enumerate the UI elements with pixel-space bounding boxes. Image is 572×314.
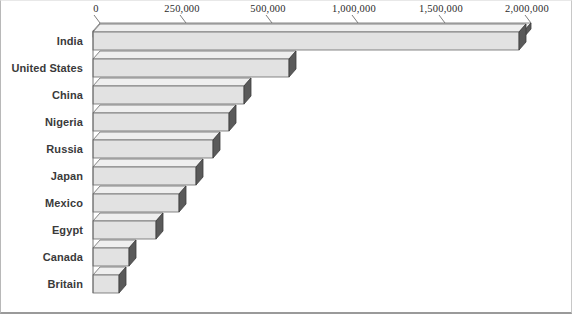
bar-britain	[93, 267, 126, 293]
x-axis-tickmark	[266, 15, 272, 23]
bar-canada	[93, 240, 136, 266]
x-axis-tickmark	[94, 15, 100, 23]
bar-top-face	[93, 24, 526, 32]
x-axis-tickmark	[180, 15, 186, 23]
bar-top-face	[93, 159, 203, 167]
bar-united-states	[93, 51, 296, 77]
category-label-mexico: Mexico	[45, 197, 83, 209]
bar-egypt	[93, 213, 163, 239]
category-labels: IndiaUnited StatesChinaNigeriaRussiaJapa…	[11, 35, 83, 290]
category-label-russia: Russia	[46, 143, 83, 155]
bar-chart-figure: 0250,000500,0001,000,0001,500,0002,000,0…	[0, 0, 572, 314]
bar-front-face	[93, 275, 119, 293]
x-axis-tick-label: 0	[93, 3, 98, 14]
bar-top-face	[93, 213, 163, 221]
category-label-nigeria: Nigeria	[45, 116, 84, 128]
category-label-india: India	[57, 35, 84, 47]
bar-nigeria	[93, 105, 236, 131]
category-label-britain: Britain	[47, 278, 83, 290]
x-axis-tick-label: 1,500,000	[419, 3, 463, 14]
bar-front-face	[93, 86, 244, 104]
bar-front-face	[93, 113, 229, 131]
bar-top-face	[93, 78, 251, 86]
chart-canvas: 0250,000500,0001,000,0001,500,0002,000,0…	[1, 1, 572, 314]
bar-china	[93, 78, 251, 104]
bar-top-face	[93, 51, 296, 59]
bar-front-face	[93, 194, 179, 212]
x-axis-tickmark	[439, 15, 445, 23]
bar-front-face	[93, 140, 213, 158]
bar-front-face	[93, 59, 289, 77]
bar-japan	[93, 159, 203, 185]
category-label-china: China	[52, 89, 84, 101]
x-axis-ticks: 0250,000500,0001,000,0001,500,0002,000,0…	[93, 3, 549, 23]
bar-mexico	[93, 186, 186, 212]
bar-front-face	[93, 167, 196, 185]
category-label-japan: Japan	[51, 170, 83, 182]
x-axis-tickmark	[352, 15, 358, 23]
category-label-canada: Canada	[43, 251, 84, 263]
x-axis-tick-label: 1,000,000	[332, 3, 376, 14]
category-label-united-states: United States	[11, 62, 83, 74]
bar-series	[93, 24, 526, 293]
bar-top-face	[93, 186, 186, 194]
bar-top-face	[93, 132, 220, 140]
x-axis-tick-label: 2,000,000	[505, 3, 549, 14]
bar-front-face	[93, 248, 129, 266]
bar-india	[93, 24, 526, 50]
bar-top-face	[93, 105, 236, 113]
x-axis-tick-label: 500,000	[250, 3, 286, 14]
x-axis-tickmark	[525, 15, 531, 23]
category-label-egypt: Egypt	[52, 224, 83, 236]
bar-russia	[93, 132, 220, 158]
bar-front-face	[93, 221, 156, 239]
bar-front-face	[93, 32, 519, 50]
x-axis-tick-label: 250,000	[164, 3, 200, 14]
